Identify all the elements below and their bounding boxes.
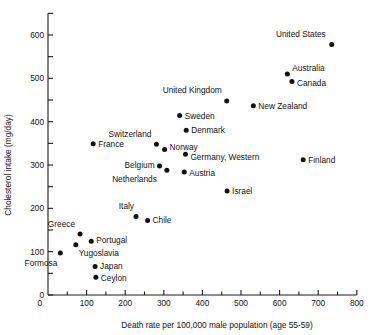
data-point — [134, 214, 139, 219]
data-point-label: France — [98, 139, 124, 149]
data-point — [289, 79, 294, 84]
data-point-label: Italy — [119, 201, 135, 211]
data-point — [177, 113, 182, 118]
y-tick-label: 500 — [30, 73, 44, 83]
data-point-label: Portugal — [96, 235, 127, 245]
scatter-plot-figure: 0100200300400500600010020030040050060070… — [0, 0, 387, 335]
data-point-label: Norway — [170, 142, 199, 152]
data-point — [301, 157, 306, 162]
data-point — [182, 169, 187, 174]
data-point — [58, 250, 63, 255]
y-tick-label: 300 — [30, 160, 44, 170]
data-point — [329, 42, 334, 47]
data-point — [145, 218, 150, 223]
data-point — [93, 264, 98, 269]
data-point-label: Israel — [232, 186, 252, 196]
data-point-label: Switzerland — [109, 129, 152, 139]
data-point-label: Formosa — [25, 258, 58, 268]
x-tick-label: 800 — [350, 298, 364, 308]
x-tick-label: 300 — [157, 298, 171, 308]
data-point — [184, 128, 189, 133]
data-point-label: New Zealand — [258, 101, 307, 111]
data-point-label: Chile — [153, 215, 172, 225]
x-tick-label: 700 — [311, 298, 325, 308]
data-point-label: Sweden — [185, 111, 215, 121]
y-tick-label: 200 — [30, 203, 44, 213]
x-tick-label: 500 — [234, 298, 248, 308]
data-point-label: Ceylon — [101, 273, 127, 283]
y-axis-title: Cholesterol intake (mg/day) — [3, 114, 13, 216]
x-tick-label: 100 — [80, 298, 94, 308]
data-point — [93, 275, 98, 280]
y-tick-label: 600 — [30, 30, 44, 40]
x-tick-label: 200 — [118, 298, 132, 308]
data-point-label: Netherlands — [112, 174, 157, 184]
data-point — [183, 152, 188, 157]
data-point — [73, 242, 78, 247]
y-tick-label: 400 — [30, 117, 44, 127]
data-point-label: Canada — [297, 78, 326, 88]
data-point-labels: United StatesAustraliaCanadaUnited Kingd… — [25, 29, 336, 284]
data-point-label: Germany, Western — [190, 152, 259, 162]
data-point-label: Denmark — [191, 125, 226, 135]
x-axis-title: Death rate per 100,000 male population (… — [121, 320, 313, 330]
x-tick-label: 600 — [273, 298, 287, 308]
data-point — [251, 103, 256, 108]
data-point-label: Japan — [100, 261, 123, 271]
data-point — [162, 147, 167, 152]
data-point — [91, 141, 96, 146]
data-point — [164, 168, 169, 173]
data-point — [225, 189, 230, 194]
data-point-label: Finland — [308, 155, 336, 165]
data-point-label: United Kingdom — [163, 85, 222, 95]
data-point — [154, 142, 159, 147]
y-tick-label: 100 — [30, 247, 44, 257]
x-tick-label: 400 — [195, 298, 209, 308]
data-point — [285, 72, 290, 77]
data-point — [78, 231, 83, 236]
data-point — [224, 98, 229, 103]
data-point-label: Austria — [189, 168, 215, 178]
plot-canvas: 0100200300400500600010020030040050060070… — [0, 0, 387, 335]
data-point — [89, 239, 94, 244]
x-tick-label: 0 — [37, 298, 42, 308]
data-point — [157, 163, 162, 168]
data-point-label: United States — [276, 29, 326, 39]
data-point-label: Greece — [48, 219, 76, 229]
data-point-label: Belgium — [125, 160, 155, 170]
data-point-label: Australia — [292, 63, 325, 73]
data-point-label: Yugoslavia — [79, 248, 120, 258]
